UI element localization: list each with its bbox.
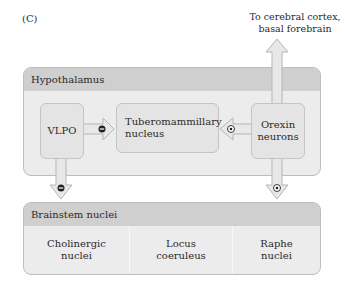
excitatory-badge-orexin-brainstem (274, 185, 281, 192)
inhibitory-badge-vlpo-brainstem (58, 185, 65, 192)
excitatory-badge-orexin-tmn (228, 126, 235, 133)
inhibitory-badge-vlpo-tmn (99, 126, 106, 133)
